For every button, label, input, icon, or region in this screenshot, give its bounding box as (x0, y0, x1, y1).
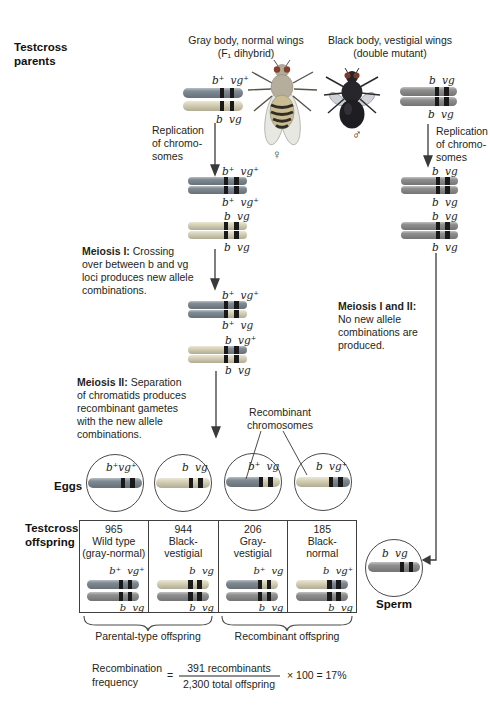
sister-chromatid (188, 222, 247, 230)
replication-right-line3: somes (436, 151, 467, 164)
egg2-chromosome (156, 478, 210, 488)
egg4-allele: b vg⁺ (316, 460, 347, 472)
offspring-count: 944 (149, 523, 219, 535)
replication-left-line1: Replication (152, 124, 204, 137)
locus-band (268, 477, 273, 487)
sperm-chromosome (368, 562, 420, 572)
locus-band (258, 592, 263, 601)
locus-band (224, 310, 229, 318)
arrowhead (211, 165, 219, 175)
offspring-name: vestigial (149, 547, 219, 559)
arrowhead (211, 279, 219, 289)
male-chromosome-2 (400, 97, 457, 106)
locus-band (188, 580, 193, 589)
locus-band (336, 592, 341, 601)
locus-band (197, 592, 202, 601)
offspring-name: Wild type (79, 535, 149, 547)
meiosis2-caption-line1: Meiosis II: Separation (77, 376, 181, 389)
replication-right-line2: of chromo- (436, 138, 486, 151)
offspring-heading-line2: offspring (25, 535, 75, 549)
sister-chromatid (401, 231, 458, 239)
f1-allele-top: b⁺ vg⁺ (212, 74, 249, 86)
egg-derived-chromosome (157, 580, 209, 589)
sister-chromatid (401, 186, 458, 194)
locus-band (327, 592, 332, 601)
recombinant-offspring-label: Recombinant offspring (208, 630, 366, 643)
egg3-recombinant-chromosome (226, 477, 280, 487)
dup-right2-allele-top: b vg (432, 210, 458, 222)
locus-band (400, 562, 405, 572)
replication-left-line3: somes (152, 150, 183, 163)
dup-left2-allele-top: b vg (224, 210, 250, 222)
meiosis12-caption-line1: No new allele (338, 313, 401, 326)
arrowhead (424, 156, 432, 166)
locus-band (234, 186, 239, 194)
crossover-A-allele-top: b⁺ vg⁺ (222, 289, 259, 301)
male-allele-top: b vg (429, 74, 455, 86)
locus-band (409, 562, 414, 572)
recombinant-callout-line1: Recombinant (226, 406, 334, 419)
locus-band (444, 87, 449, 96)
locus-band (130, 478, 135, 488)
sperm-derived-chromosome (157, 592, 209, 601)
offspring-count: 185 (288, 523, 358, 535)
dup-left1-allele-bottom: b⁺ vg⁺ (222, 196, 259, 208)
sperm-derived-chromosome (296, 592, 348, 601)
sperm-derived-chromosome (226, 592, 278, 601)
locus-band (329, 477, 334, 487)
crossover-B-allele-bottom: b vg (225, 364, 251, 376)
offspring-name: (gray-normal) (79, 547, 149, 559)
egg4-recombinant-chromosome (296, 477, 350, 487)
female-parent-title: Gray body, normal wings (166, 34, 326, 47)
locus-band (224, 222, 229, 230)
locus-band (436, 186, 441, 194)
parental-offspring-label: Parental-type offspring (68, 630, 228, 643)
sister-chromatid (188, 186, 247, 194)
offspring-name: Gray- (218, 535, 288, 547)
locus-band (220, 88, 225, 98)
sister-chromatid (188, 231, 247, 239)
locus-band (234, 177, 239, 185)
sperm-path-arrow (430, 253, 436, 560)
recombinant-chromatid (188, 346, 247, 354)
offspring-col-gray-vestigial: 206 Gray- vestigial b⁺ vg b vg (218, 520, 288, 613)
formula-lhs-line2: frequency (92, 676, 138, 689)
sister-chromatid (188, 177, 247, 185)
formula-equals: = (167, 669, 173, 682)
parents-heading-line1: Testcross (14, 40, 67, 54)
meiosis2-caption-bold: Meiosis II: (77, 376, 128, 388)
crossover-B-allele-top: b vg⁺ (225, 334, 256, 346)
offspring-name: Black- (288, 535, 358, 547)
parents-heading-line2: parents (14, 54, 56, 68)
f1-chromosome-light (183, 101, 243, 111)
dup-left1-allele-top: b⁺ vg⁺ (222, 165, 259, 177)
offspring-allele-top: b vg⁺ (323, 565, 353, 576)
testcross-figure: Testcross parents Gray body, normal wing… (0, 0, 490, 708)
locus-band (234, 355, 239, 363)
egg1-chromosome (88, 478, 142, 488)
locus-band (230, 88, 235, 98)
sister-chromatid (401, 177, 458, 185)
replication-right-line1: Replication (436, 125, 488, 138)
sister-chromatid (188, 301, 247, 309)
female-fly-illustration (245, 58, 319, 156)
locus-band (198, 478, 203, 488)
locus-band (224, 301, 229, 309)
locus-band (445, 186, 450, 194)
male-parent-title: Black body, vestigial wings (310, 34, 470, 47)
locus-band (119, 592, 124, 601)
offspring-allele-bottom: b vg (328, 602, 353, 613)
locus-band (436, 231, 441, 239)
locus-band (445, 231, 450, 239)
meiosis2-caption-line3: recombinant gametes (77, 402, 178, 415)
male-fly-illustration (322, 66, 382, 138)
locus-band (224, 186, 229, 194)
locus-band (267, 580, 272, 589)
meiosis1-caption-bold: Meiosis I: (82, 245, 130, 257)
locus-band (224, 355, 229, 363)
egg-derived-chromosome (87, 580, 139, 589)
meiosis2-caption-line4: with the new allele (77, 415, 163, 428)
offspring-allele-bottom: b vg (259, 602, 284, 613)
locus-band (445, 177, 450, 185)
locus-band (436, 177, 441, 185)
